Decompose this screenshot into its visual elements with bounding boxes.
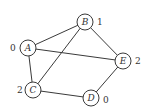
node-value: 0 bbox=[103, 95, 109, 105]
node-value: 2 bbox=[135, 56, 141, 66]
node-value: 1 bbox=[97, 17, 103, 27]
node-label: C bbox=[30, 85, 37, 95]
node-d: D0 bbox=[83, 90, 109, 106]
graph-diagram: A0B1E2C2D0 bbox=[0, 0, 149, 111]
node-a: A0 bbox=[10, 40, 36, 56]
edges-group bbox=[28, 22, 123, 98]
node-value: 0 bbox=[10, 43, 16, 53]
edge-c-d bbox=[33, 90, 91, 98]
node-c: C2 bbox=[17, 82, 41, 98]
node-e: E2 bbox=[115, 53, 141, 69]
node-value: 2 bbox=[17, 85, 23, 95]
node-label: B bbox=[81, 17, 89, 27]
node-label: D bbox=[86, 93, 94, 103]
node-label: A bbox=[24, 43, 32, 53]
edge-b-c bbox=[33, 22, 85, 90]
node-label: E bbox=[119, 56, 127, 66]
edge-a-e bbox=[28, 48, 123, 61]
node-b: B1 bbox=[77, 14, 103, 30]
edge-a-b bbox=[28, 22, 85, 48]
